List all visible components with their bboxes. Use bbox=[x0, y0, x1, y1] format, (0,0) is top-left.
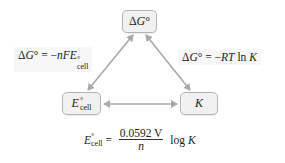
g-var: G bbox=[189, 51, 197, 63]
cell-subscript: cell bbox=[77, 63, 89, 70]
equals-sign: = bbox=[202, 51, 214, 63]
node-k: K bbox=[180, 92, 218, 115]
nfe-var: nFE bbox=[57, 49, 77, 61]
e-var: E bbox=[72, 96, 79, 111]
fraction: 0.0592 Vn bbox=[119, 127, 164, 152]
k-var: K bbox=[195, 96, 203, 111]
relation-e-k: E°cell = 0.0592 Vn log K bbox=[80, 125, 200, 154]
log-function: log bbox=[167, 134, 187, 146]
cell-subscript: cell bbox=[80, 104, 92, 111]
arrow-g-e bbox=[88, 35, 133, 90]
relation-g-k: ΔG° = −RT ln K bbox=[178, 49, 261, 65]
degree-mark: ° bbox=[145, 14, 150, 29]
equals-sign: = bbox=[103, 134, 115, 146]
node-delta-g: ΔG° bbox=[122, 10, 157, 33]
k-var: K bbox=[249, 51, 257, 63]
equals-sign: = bbox=[38, 49, 50, 61]
delta-symbol: Δ bbox=[129, 14, 137, 29]
node-e-cell: E°cell bbox=[62, 92, 101, 115]
fraction-numerator: 0.0592 V bbox=[119, 127, 164, 140]
ln-function: ln bbox=[235, 51, 250, 63]
rt-var: RT bbox=[221, 51, 234, 63]
g-var: G bbox=[137, 14, 146, 29]
fraction-denominator: n bbox=[138, 140, 144, 152]
cell-subscript: cell bbox=[91, 140, 103, 147]
relation-g-e: ΔG° = −nFE°cell bbox=[14, 47, 92, 72]
g-var: G bbox=[25, 49, 33, 61]
e-var: E bbox=[84, 134, 91, 146]
k-var: K bbox=[188, 134, 196, 146]
